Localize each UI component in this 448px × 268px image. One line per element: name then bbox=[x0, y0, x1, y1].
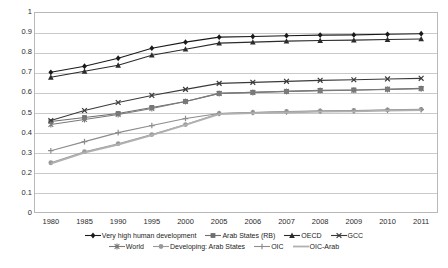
legend-item-label: OIC bbox=[271, 242, 283, 251]
x-axis: 1980198519901995200020052006200720082009… bbox=[34, 215, 438, 229]
legend-swatch-circle-icon bbox=[153, 242, 169, 251]
legend-swatch-cross-icon bbox=[331, 231, 347, 240]
data-point-diamond bbox=[183, 39, 188, 45]
y-axis: 10.90.80.70.60.50.40.30.20.10 bbox=[0, 0, 32, 225]
legend-swatch-square-icon bbox=[205, 231, 221, 240]
legend-swatch-line-icon bbox=[293, 242, 309, 251]
legend-swatch-triangle-icon bbox=[284, 231, 300, 240]
x-tick-label: 2006 bbox=[244, 217, 261, 226]
y-tick-label: 0.4 bbox=[6, 129, 32, 137]
legend-item[interactable]: OIC bbox=[254, 242, 283, 251]
data-point-square bbox=[211, 233, 216, 238]
data-point-diamond bbox=[419, 31, 424, 37]
data-point-diamond bbox=[149, 45, 154, 51]
legend-item-label: OIC-Arab bbox=[310, 242, 340, 251]
data-point-plus bbox=[115, 130, 121, 136]
y-tick-label: 0.5 bbox=[6, 109, 32, 117]
y-tick-label: 0.1 bbox=[6, 189, 32, 197]
legend-item-label: Arab States (RB) bbox=[222, 231, 275, 240]
legend-swatch-star-icon bbox=[109, 242, 125, 251]
x-tick-label: 1985 bbox=[76, 217, 93, 226]
y-tick-label: 0.8 bbox=[6, 48, 32, 56]
x-tick-label: 2000 bbox=[177, 217, 194, 226]
x-tick-label: 1990 bbox=[110, 217, 127, 226]
x-tick-label: 1980 bbox=[42, 217, 59, 226]
data-point-diamond bbox=[318, 32, 323, 38]
data-point-plus bbox=[48, 148, 54, 154]
x-tick-label: 2011 bbox=[413, 217, 429, 226]
legend-row-primary: Very high human developmentArab States (… bbox=[85, 231, 363, 240]
x-tick-label: 2005 bbox=[211, 217, 228, 226]
data-point-plus bbox=[149, 123, 155, 129]
data-point-diamond bbox=[351, 32, 356, 38]
y-tick-label: 1 bbox=[6, 8, 32, 16]
legend-row-secondary: WorldDeveloping: Arab StatesOICOIC-Arab bbox=[109, 242, 339, 251]
legend-item-label: OECD bbox=[301, 231, 321, 240]
data-point-circle bbox=[159, 244, 164, 249]
legend-item[interactable]: GCC bbox=[331, 231, 364, 240]
data-point-diamond bbox=[284, 33, 289, 39]
y-tick-label: 0.2 bbox=[6, 169, 32, 177]
legend-item[interactable]: Arab States (RB) bbox=[205, 231, 275, 240]
legend-item-label: GCC bbox=[348, 231, 364, 240]
legend-item[interactable]: Very high human development bbox=[85, 231, 197, 240]
legend-item-label: Very high human development bbox=[102, 231, 197, 240]
series-line bbox=[51, 89, 421, 125]
series-line bbox=[51, 110, 421, 164]
chart-legend: Very high human developmentArab States (… bbox=[0, 231, 448, 251]
x-tick-label: 2008 bbox=[312, 217, 329, 226]
data-point-plus bbox=[259, 244, 265, 250]
data-point-diamond bbox=[90, 233, 95, 239]
data-point-diamond bbox=[385, 31, 390, 37]
data-point-plus bbox=[82, 139, 88, 145]
legend-item[interactable]: Developing: Arab States bbox=[153, 242, 245, 251]
y-tick-label: 0.9 bbox=[6, 28, 32, 36]
y-tick-label: 0 bbox=[6, 209, 32, 217]
legend-item-label: Developing: Arab States bbox=[170, 242, 245, 251]
legend-item[interactable]: World bbox=[109, 242, 144, 251]
y-tick-label: 0.6 bbox=[6, 88, 32, 96]
x-tick-label: 2010 bbox=[379, 217, 396, 226]
x-tick-label: 1995 bbox=[143, 217, 160, 226]
legend-item-label: World bbox=[126, 242, 144, 251]
data-point-plus bbox=[183, 116, 189, 122]
data-point-diamond bbox=[116, 55, 121, 61]
data-point-diamond bbox=[217, 34, 222, 40]
legend-item[interactable]: OECD bbox=[284, 231, 321, 240]
series-layer bbox=[34, 12, 438, 213]
series-line bbox=[51, 39, 421, 77]
data-point-diamond bbox=[250, 34, 255, 40]
y-tick-label: 0.7 bbox=[6, 68, 32, 76]
legend-swatch-diamond-icon bbox=[85, 231, 101, 240]
x-tick-label: 2009 bbox=[345, 217, 362, 226]
legend-item[interactable]: OIC-Arab bbox=[293, 242, 340, 251]
y-tick-label: 0.3 bbox=[6, 149, 32, 157]
line-chart: 10.90.80.70.60.50.40.30.20.10 1980198519… bbox=[0, 0, 448, 268]
x-tick-label: 2007 bbox=[278, 217, 295, 226]
legend-swatch-plus-icon bbox=[254, 242, 270, 251]
